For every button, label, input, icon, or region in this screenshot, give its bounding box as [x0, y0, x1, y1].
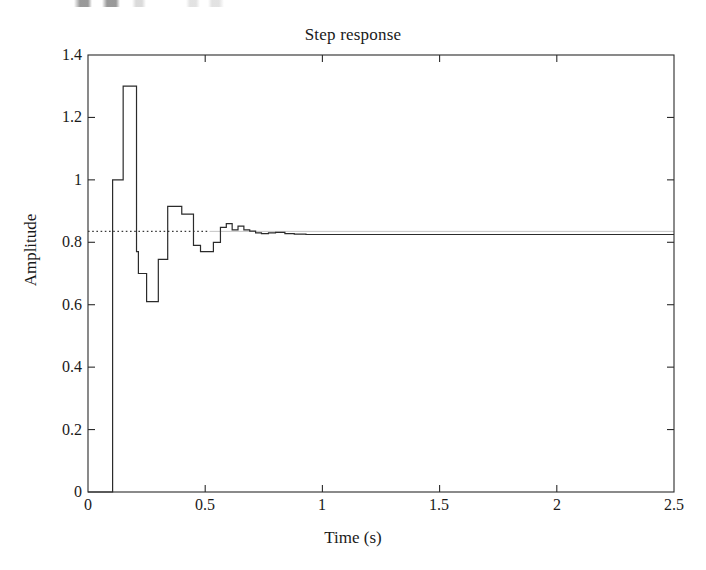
plot-canvas	[0, 0, 706, 570]
plot-frame	[88, 55, 674, 492]
axis-tick-marks	[88, 55, 674, 492]
step-response-figure: Step response Amplitude Time (s) 1.4 1.2…	[0, 0, 706, 570]
step-response-curve	[88, 86, 674, 492]
